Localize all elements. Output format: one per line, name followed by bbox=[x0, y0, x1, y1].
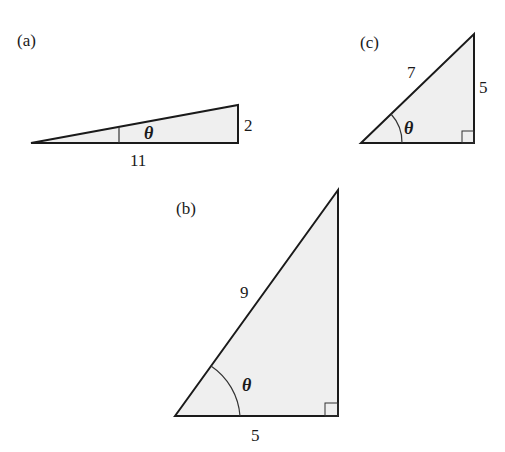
side-opposite-a: 2 bbox=[244, 116, 253, 135]
triangle-a: (a) θ 2 11 bbox=[17, 31, 253, 170]
side-opposite-c: 5 bbox=[479, 78, 488, 97]
theta-c: θ bbox=[404, 118, 414, 138]
triangle-b: (b) θ 9 5 bbox=[175, 190, 338, 445]
side-hypotenuse-c: 7 bbox=[407, 63, 416, 82]
triangle-c: (c) θ 7 5 bbox=[360, 33, 488, 143]
figure-label-b: (b) bbox=[176, 199, 196, 218]
side-adjacent-a: 11 bbox=[130, 151, 146, 170]
theta-b: θ bbox=[242, 375, 252, 395]
theta-a: θ bbox=[144, 123, 154, 143]
triangles-diagram: (a) θ 2 11 (c) θ 7 5 (b) θ 9 5 bbox=[0, 0, 505, 452]
side-adjacent-b: 5 bbox=[251, 426, 260, 445]
triangle-b-shape bbox=[175, 190, 338, 416]
triangle-a-shape bbox=[31, 105, 238, 143]
side-hypotenuse-b: 9 bbox=[240, 283, 249, 302]
figure-label-a: (a) bbox=[17, 31, 36, 50]
figure-label-c: (c) bbox=[360, 33, 379, 52]
